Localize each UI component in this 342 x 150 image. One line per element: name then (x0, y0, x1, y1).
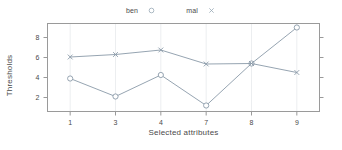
y-tick-label: 8 (28, 34, 40, 41)
chart-container: ben mal Thresholds Selected attributes 2… (0, 0, 342, 150)
data-point-marker (294, 25, 299, 30)
x-axis-title: Selected attributes (47, 128, 320, 137)
x-tick-label: 9 (290, 119, 304, 126)
data-point-marker (68, 76, 73, 81)
y-tick-label: 2 (28, 94, 40, 101)
x-tick-label: 3 (109, 119, 123, 126)
x-tick-label: 7 (199, 119, 213, 126)
series-mal (68, 48, 299, 75)
x-axis-ticks (70, 112, 297, 116)
y-tick-label: 4 (28, 74, 40, 81)
x-tick-label: 4 (154, 119, 168, 126)
gridlines (70, 24, 297, 112)
x-tick-label: 8 (245, 119, 259, 126)
y-tick-label: 6 (28, 54, 40, 61)
data-point-marker (158, 72, 163, 77)
series-line (70, 50, 297, 73)
x-tick-label: 1 (63, 119, 77, 126)
data-series-layer (68, 25, 300, 108)
y-axis-ticks (44, 38, 324, 98)
data-point-marker (204, 103, 209, 108)
series-line (70, 28, 297, 106)
data-point-marker (113, 94, 118, 99)
plot-area: Thresholds Selected attributes 2468 1347… (0, 0, 342, 150)
y-axis-title: Thresholds (3, 40, 17, 110)
plot-frame (48, 24, 320, 112)
